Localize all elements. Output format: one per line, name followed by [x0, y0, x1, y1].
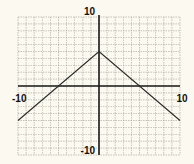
- y-tick-label: 10: [84, 6, 96, 17]
- x-tick-label: -10: [12, 93, 27, 104]
- x-tick-label: 10: [176, 93, 188, 104]
- y-tick-label: -10: [81, 145, 96, 156]
- tick-labels: -101010-10: [12, 6, 188, 156]
- graph: -101010-10: [0, 0, 194, 164]
